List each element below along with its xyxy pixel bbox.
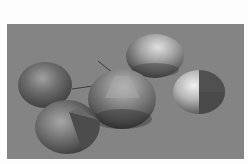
right-sphere <box>173 70 225 114</box>
axis-line-lower <box>72 86 93 89</box>
image-frame <box>0 0 248 164</box>
render-viewport <box>7 24 244 159</box>
scene-render <box>7 24 244 159</box>
